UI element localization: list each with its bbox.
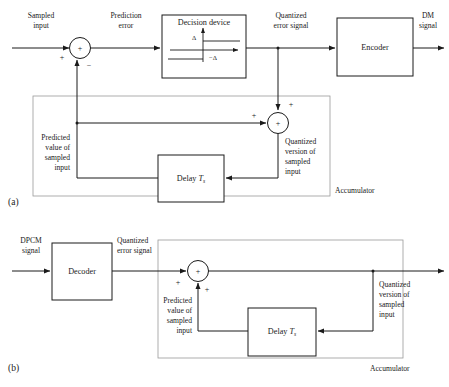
block-diagram: Sampled input Prediction error Decision … (0, 0, 449, 387)
label-accumulator-b: Accumulator (370, 364, 410, 373)
label-quantized-version-b-line3: sampled (379, 300, 405, 309)
label-sampled-input-line2: input (33, 21, 50, 30)
label-quantized-version-a-line4: input (285, 167, 302, 176)
panel-tag-b: (b) (8, 363, 19, 374)
label-predicted-value-a-line2: value of (45, 143, 70, 152)
label-dm-signal-line2: signal (419, 21, 437, 30)
sign-summer1-input-feedback: − (87, 61, 92, 70)
sign-summer2-input-top: + (289, 100, 294, 109)
panel-tag-a: (a) (8, 197, 19, 208)
label-delay-b-param-sub: s (294, 331, 296, 337)
label-decoder: Decoder (68, 267, 96, 276)
label-prediction-error-line1: Prediction (110, 11, 141, 20)
label-quantized-error-a-line2: error signal (274, 21, 309, 30)
label-predicted-value-b-line2: value of (167, 306, 192, 315)
label-delay-b-word: Delay (268, 327, 288, 336)
sign-summer-b-input-bottom: + (205, 285, 210, 294)
label-dm-signal-line1: DM (422, 11, 434, 20)
label-dpcm-signal-line1: DPCM (20, 236, 42, 245)
label-delta-negative: −Δ (209, 54, 217, 61)
label-predicted-value-b-line4: input (176, 326, 193, 335)
label-predicted-value-b-line1: Predicted (163, 296, 192, 305)
label-encoder: Encoder (361, 43, 389, 52)
label-delay-b: DelayTs (268, 327, 296, 337)
label-predicted-value-a-line3: sampled (45, 153, 71, 162)
label-delay-a-word: Delay (177, 174, 197, 183)
label-delta-positive: Δ (192, 34, 196, 41)
label-sampled-input-line1: Sampled (28, 11, 55, 20)
label-quantized-version-a-line2: version of (285, 147, 316, 156)
label-quantized-error-b-line1: Quantized (117, 236, 148, 245)
label-quantized-error-b-line2: error signal (117, 246, 152, 255)
label-delay-a: DelayTs (177, 174, 205, 184)
junction-dot-b-1 (372, 270, 375, 273)
junction-dot-a-1 (277, 47, 280, 50)
label-quantized-version-b-line2: version of (379, 290, 410, 299)
sign-summer2-center: + (276, 119, 281, 128)
label-dpcm-signal-line2: signal (22, 246, 40, 255)
sign-summer1-input-left: + (60, 53, 65, 62)
sign-summer2-input-left: + (252, 111, 257, 120)
sign-summer-b-input-left: + (176, 278, 181, 287)
label-quantized-error-a-line1: Quantized (275, 11, 306, 20)
sign-summer-b-center: + (196, 267, 201, 276)
label-quantized-version-a-line3: sampled (285, 157, 311, 166)
label-prediction-error-line2: error (119, 21, 134, 30)
figure-root: Sampled input Prediction error Decision … (0, 0, 449, 387)
junction-dot-a-2 (76, 122, 79, 125)
label-predicted-value-a-line4: input (54, 163, 71, 172)
sign-summer1-center: + (78, 44, 83, 53)
label-predicted-value-a-line1: Predicted (41, 133, 70, 142)
label-predicted-value-b-line3: sampled (167, 316, 193, 325)
label-delay-a-param-sub: s (203, 178, 205, 184)
label-accumulator-a: Accumulator (335, 186, 375, 195)
label-quantized-version-b-line4: input (379, 310, 396, 319)
label-quantized-version-b-line1: Quantized (379, 280, 410, 289)
label-decision-device: Decision device (178, 18, 231, 27)
label-quantized-version-a-line1: Quantized (285, 137, 316, 146)
